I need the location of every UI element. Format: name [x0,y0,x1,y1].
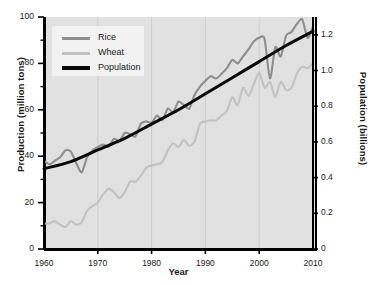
y-tick-label-left: 100 [4,11,34,21]
y-tick-label-left: 40 [4,150,34,160]
chart-legend: Rice Wheat Population [52,26,144,76]
x-tick-label: 2010 [293,258,333,268]
legend-swatch-rice [62,37,90,40]
legend-label-rice: Rice [98,32,116,42]
y-tick-label-right: 0.2 [321,207,351,217]
y-tick-label-left: 0 [4,243,34,253]
x-tick-label: 1960 [24,258,64,268]
y-tick-label-right: 1.2 [321,29,351,39]
legend-swatch-population [62,66,90,70]
legend-label-wheat: Wheat [98,47,124,57]
y-tick-label-right: 0 [321,243,351,253]
y-tick-label-left: 60 [4,104,34,114]
series-line-wheat [44,63,313,227]
y-tick-label-right: 0.6 [321,136,351,146]
y-tick-label-left: 20 [4,197,34,207]
legend-label-population: Population [98,62,141,72]
y-tick-label-right: 0.4 [321,172,351,182]
x-tick-label: 1990 [185,258,225,268]
x-tick-label: 2000 [239,258,279,268]
y-tick-label-right: 1.0 [321,65,351,75]
legend-swatch-wheat [62,52,90,55]
y-tick-label-right: 0.8 [321,100,351,110]
y-tick-label-left: 80 [4,57,34,67]
x-tick-label: 1980 [132,258,172,268]
chart-container: Production (million tons) Population (bi… [0,0,372,285]
x-tick-label: 1970 [78,258,118,268]
